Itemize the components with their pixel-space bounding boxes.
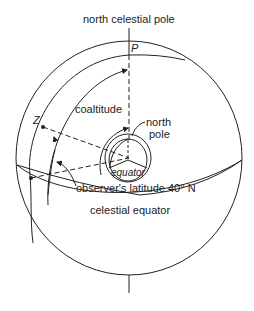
latitude-arc [54,137,55,140]
coaltitude-label: coaltitude [75,103,122,115]
observer-point [29,176,33,180]
north-pole-pointer [132,122,145,136]
upper-arc [129,55,185,60]
celestial-equator-label: celestial equator [90,204,170,216]
north-celestial-pole-label: north celestial pole [83,13,175,25]
north-pole-label-2: pole [149,128,170,140]
latitude-pointer [57,162,76,186]
north-pole-label-1: north [146,116,171,128]
zenith-line [43,127,129,158]
p-label: P [131,42,138,54]
celestial-sphere-diagram: north celestial pole P Z coaltitude nort… [0,0,254,311]
earth-equator-label: equator [111,167,145,179]
diagram-graphics [0,0,254,311]
z-label: Z [33,114,40,126]
zenith-point [41,125,45,129]
observer-latitude-label: observer's latitude 40° N [76,182,196,194]
